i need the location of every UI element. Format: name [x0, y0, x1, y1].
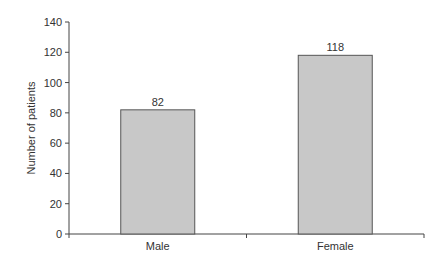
- bar-male: [121, 110, 195, 234]
- y-tick-label: 140: [44, 16, 62, 28]
- x-tick-label: Female: [317, 240, 354, 252]
- data-label: 82: [152, 96, 164, 108]
- chart-canvas: 02040608010012014082Male118Female: [0, 0, 443, 262]
- x-tick-label: Male: [146, 240, 170, 252]
- y-tick-label: 120: [44, 46, 62, 58]
- y-tick-label: 20: [50, 198, 62, 210]
- y-tick-label: 80: [50, 107, 62, 119]
- data-label: 118: [326, 41, 344, 53]
- y-axis-label: Number of patients: [25, 82, 37, 175]
- y-tick-label: 100: [44, 77, 62, 89]
- bar-female: [298, 55, 372, 234]
- y-tick-label: 60: [50, 137, 62, 149]
- y-tick-label: 0: [56, 228, 62, 240]
- bar-chart: 02040608010012014082Male118Female Number…: [0, 0, 443, 262]
- y-tick-label: 40: [50, 167, 62, 179]
